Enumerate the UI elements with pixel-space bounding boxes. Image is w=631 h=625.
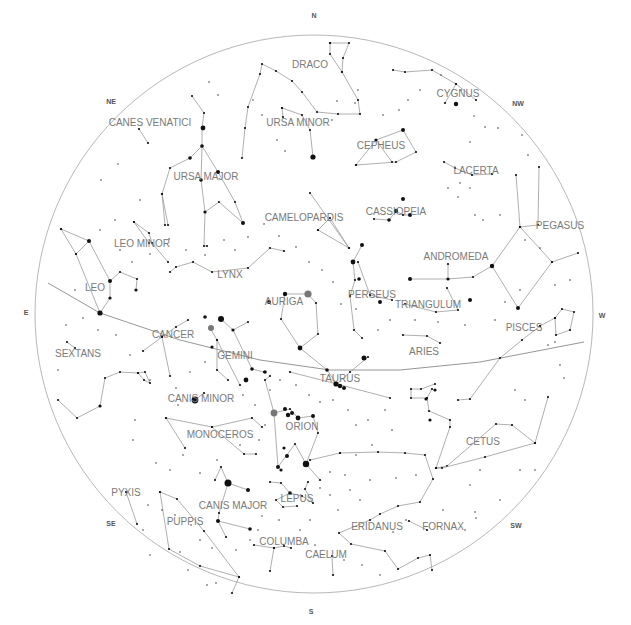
bright-star[interactable] — [248, 527, 252, 531]
bright-star[interactable] — [290, 411, 294, 415]
bright-star[interactable] — [428, 418, 431, 421]
bright-star[interactable] — [276, 465, 280, 469]
label-lepus[interactable]: LEPUS — [281, 493, 314, 504]
label-draco[interactable]: DRACO — [292, 59, 328, 70]
label-cancer[interactable]: CANCER — [152, 329, 194, 340]
star-dot — [350, 543, 352, 545]
bright-star[interactable] — [303, 461, 309, 467]
bright-star[interactable] — [134, 288, 137, 291]
bright-star[interactable] — [304, 290, 311, 297]
faint-star — [149, 379, 150, 380]
label-columba[interactable]: COLUMBA — [259, 536, 309, 547]
label-monoceros[interactable]: MONOCEROS — [187, 429, 254, 440]
bright-star[interactable] — [490, 264, 494, 268]
bright-star[interactable] — [446, 277, 449, 280]
bright-star[interactable] — [108, 279, 112, 283]
bright-star[interactable] — [360, 243, 364, 247]
label-cetus[interactable]: CETUS — [466, 436, 500, 447]
bright-star[interactable] — [231, 328, 234, 331]
bright-star[interactable] — [203, 315, 207, 319]
bright-star[interactable] — [342, 386, 346, 390]
label-leo[interactable]: LEO — [85, 282, 105, 293]
label-canes-venatici[interactable]: CANES VENATICI — [109, 117, 192, 128]
bright-star[interactable] — [311, 414, 315, 418]
label-aries[interactable]: ARIES — [409, 346, 439, 357]
label-camelopardis[interactable]: CAMELOPARDIS — [265, 212, 344, 223]
bright-star[interactable] — [468, 298, 472, 302]
bright-star[interactable] — [87, 239, 91, 243]
bright-star[interactable] — [200, 144, 204, 148]
bright-star[interactable] — [454, 102, 458, 106]
label-leo-minor[interactable]: LEO MINOR — [114, 238, 170, 249]
bright-star[interactable] — [203, 210, 206, 213]
label-pyxis[interactable]: PYXIS — [111, 487, 141, 498]
label-ursa-major[interactable]: URSA MAJOR — [173, 171, 238, 182]
label-pegasus[interactable]: PEGASUS — [536, 220, 585, 231]
bright-star[interactable] — [108, 296, 111, 299]
bright-star[interactable] — [516, 306, 520, 310]
bright-star[interactable] — [387, 218, 391, 222]
label-andromeda[interactable]: ANDROMEDA — [423, 251, 488, 262]
bright-star[interactable] — [401, 197, 405, 201]
label-perseus[interactable]: PERSEUS — [348, 289, 396, 300]
bright-star[interactable] — [325, 368, 329, 372]
label-triangulum[interactable]: TRIANGULUM — [395, 299, 461, 310]
label-canis-minor[interactable]: CANIS MINOR — [168, 393, 235, 404]
faint-star — [355, 424, 356, 425]
bright-star[interactable] — [282, 446, 285, 449]
bright-star[interactable] — [244, 378, 249, 383]
bright-star[interactable] — [283, 407, 287, 411]
label-cygnus[interactable]: CYGNUS — [437, 88, 480, 99]
bright-star[interactable] — [357, 277, 361, 281]
label-fornax[interactable]: FORNAX — [422, 521, 464, 532]
label-canis-major[interactable]: CANIS MAJOR — [199, 500, 267, 511]
label-lynx[interactable]: LYNX — [217, 269, 243, 280]
label-auriga[interactable]: AURIGA — [265, 296, 304, 307]
bright-star[interactable] — [241, 221, 245, 225]
label-orion[interactable]: ORION — [286, 421, 319, 432]
label-cassiopeia[interactable]: CASSIOPEIA — [366, 206, 427, 217]
bright-star[interactable] — [362, 356, 367, 361]
label-cepheus[interactable]: CEPHEUS — [357, 140, 406, 151]
bright-star[interactable] — [208, 325, 214, 331]
bright-star[interactable] — [250, 367, 254, 371]
bright-star[interactable] — [97, 310, 102, 315]
label-caelum[interactable]: CAELUM — [305, 549, 347, 560]
label-gemini[interactable]: GEMINI — [217, 350, 253, 361]
label-puppis[interactable]: PUPPIS — [167, 516, 204, 527]
label-eridanus[interactable]: ERIDANUS — [351, 521, 403, 532]
label-taurus[interactable]: TAURUS — [320, 373, 361, 384]
bright-star[interactable] — [246, 488, 250, 492]
bright-star[interactable] — [298, 346, 303, 351]
bright-star[interactable] — [310, 154, 315, 159]
bright-star[interactable] — [424, 397, 427, 400]
faint-star — [74, 289, 75, 290]
bright-star[interactable] — [216, 519, 220, 523]
bright-star[interactable] — [201, 126, 206, 131]
label-sextans[interactable]: SEXTANS — [55, 348, 101, 359]
star-dot — [337, 113, 339, 115]
bright-star[interactable] — [279, 468, 282, 471]
bright-star[interactable] — [296, 416, 301, 421]
label-lacerta[interactable]: LACERTA — [453, 165, 499, 176]
label-ursa-minor[interactable]: URSA MINOR — [266, 117, 329, 128]
bright-star[interactable] — [433, 388, 436, 391]
bright-star[interactable] — [408, 277, 412, 281]
bright-star[interactable] — [98, 404, 101, 407]
bright-star[interactable] — [188, 156, 192, 160]
bright-star[interactable] — [285, 454, 289, 458]
bright-star[interactable] — [271, 410, 278, 417]
bright-star[interactable] — [286, 413, 290, 417]
bright-star[interactable] — [378, 300, 382, 304]
bright-star[interactable] — [401, 128, 405, 132]
star-chart[interactable]: DRACOURSA MINORCEPHEUSCYGNUSLACERTACASSI… — [0, 0, 631, 625]
bright-star[interactable] — [263, 370, 267, 374]
bright-star[interactable] — [210, 345, 213, 348]
bright-star[interactable] — [338, 384, 342, 388]
faint-star — [82, 317, 83, 318]
bright-star[interactable] — [225, 480, 232, 487]
bright-star[interactable] — [218, 316, 224, 322]
label-pisces[interactable]: PISCES — [506, 322, 543, 333]
faint-star — [349, 489, 350, 490]
bright-star[interactable] — [351, 260, 356, 265]
